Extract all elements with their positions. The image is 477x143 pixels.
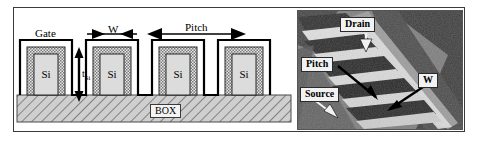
fin-3: Si [159, 47, 197, 95]
figure-root: Si Si Si Si [0, 0, 477, 143]
schematic-panel: Si Si Si Si [15, 9, 293, 130]
fin-4: Si [225, 47, 263, 95]
sem-source-label: Source [300, 87, 339, 102]
sem-pitch-label: Pitch [301, 57, 333, 72]
sem-width-label: W [418, 73, 438, 88]
fin-1: Si [27, 47, 65, 95]
width-label: W [108, 24, 118, 35]
fin-2-label: Si [107, 68, 116, 80]
pitch-label: Pitch [185, 22, 208, 33]
sem-micrograph-panel: Drain Pitch Source W [297, 10, 463, 130]
fin-2: Si [93, 47, 131, 95]
gate-label: Gate [35, 28, 56, 39]
sem-drain-label: Drain [340, 17, 375, 32]
fin-3-label: Si [173, 68, 182, 80]
fin-4-label: Si [239, 68, 248, 80]
fin-1-label: Si [41, 68, 50, 80]
fin-thickness-subscript: Si [85, 74, 91, 81]
buried-oxide-label: BOX [150, 104, 181, 118]
fin-thickness-label: tSi [82, 69, 90, 82]
